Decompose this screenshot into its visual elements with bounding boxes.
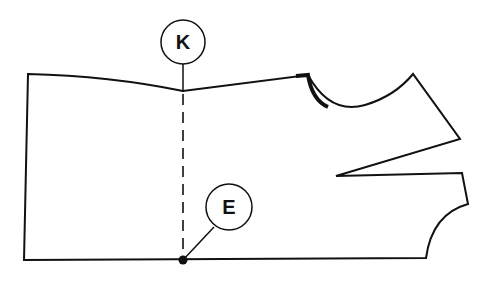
pattern-outline [24,74,468,260]
label-e: E [206,184,252,230]
point-e-dot [179,256,188,265]
label-k-text: K [176,31,191,53]
e-leader-line [183,227,214,260]
armhole-emphasis [296,75,328,107]
label-e-text: E [222,196,235,218]
label-k: K [161,20,205,64]
pattern-diagram: K E [0,0,495,283]
